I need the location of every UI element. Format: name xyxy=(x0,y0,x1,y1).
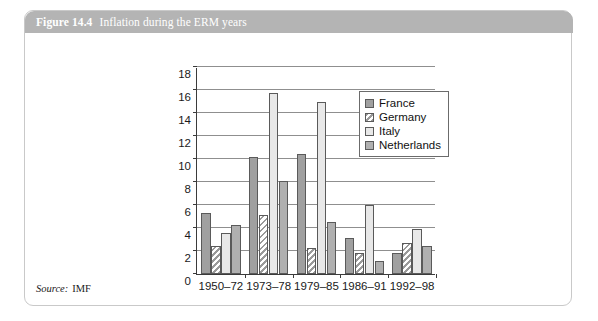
bar-italy-0 xyxy=(221,233,231,274)
legend-label: Germany xyxy=(379,111,426,123)
legend-swatch-france xyxy=(365,99,374,108)
bar-netherlands-3 xyxy=(375,261,385,274)
bar-germany-3 xyxy=(355,253,365,274)
bar-germany-0 xyxy=(211,246,221,274)
bar-group xyxy=(197,68,245,274)
bar-germany-4 xyxy=(402,243,412,274)
bar-france-2 xyxy=(297,154,307,274)
x-axis-tick xyxy=(245,274,246,278)
bar-france-3 xyxy=(345,238,355,274)
legend-item-italy: Italy xyxy=(365,124,441,138)
x-axis-tick xyxy=(340,274,341,278)
x-axis-tick xyxy=(436,274,437,278)
figure-title: Inflation during the ERM years xyxy=(99,16,246,28)
bar-germany-1 xyxy=(259,215,269,274)
legend-item-netherlands: Netherlands xyxy=(365,138,441,152)
figure-container: Figure 14.4 Inflation during the ERM yea… xyxy=(24,10,572,306)
bar-italy-3 xyxy=(365,205,375,274)
x-axis-tick xyxy=(388,274,389,278)
bar-italy-2 xyxy=(317,102,327,275)
gridline xyxy=(197,66,435,67)
figure-number: Figure 14.4 xyxy=(36,16,92,28)
bar-france-1 xyxy=(249,157,259,274)
bar-france-0 xyxy=(201,213,211,274)
legend-item-germany: Germany xyxy=(365,110,441,124)
x-axis-category-label: 1973–78 xyxy=(246,280,291,292)
chart-legend: FranceGermanyItalyNetherlands xyxy=(359,91,449,157)
source-note: Source:IMF xyxy=(36,283,91,294)
legend-swatch-germany xyxy=(365,113,374,122)
bar-netherlands-0 xyxy=(231,225,241,274)
legend-swatch-netherlands xyxy=(365,141,374,150)
figure-title-bar: Figure 14.4 Inflation during the ERM yea… xyxy=(25,11,573,33)
x-axis-category-label: 1992–98 xyxy=(390,280,435,292)
y-axis-tick xyxy=(193,66,197,67)
x-axis-category-label: 1979–85 xyxy=(294,280,339,292)
legend-item-france: France xyxy=(365,96,441,110)
bar-italy-4 xyxy=(412,229,422,274)
bar-france-4 xyxy=(392,253,402,274)
bar-group xyxy=(293,68,341,274)
bar-netherlands-2 xyxy=(327,222,337,274)
legend-swatch-italy xyxy=(365,127,374,136)
x-axis-category-label: 1950–72 xyxy=(199,280,244,292)
legend-label: France xyxy=(379,97,415,109)
source-value: IMF xyxy=(72,283,91,294)
bar-netherlands-1 xyxy=(279,181,289,274)
legend-label: Italy xyxy=(379,125,400,137)
source-label: Source: xyxy=(36,283,68,294)
x-axis-category-label: 1986–91 xyxy=(342,280,387,292)
bar-netherlands-4 xyxy=(422,246,432,274)
x-axis-tick xyxy=(293,274,294,278)
legend-label: Netherlands xyxy=(379,139,441,151)
bar-italy-1 xyxy=(269,93,279,274)
bar-group xyxy=(245,68,293,274)
bar-germany-2 xyxy=(307,248,317,274)
chart-area: 0246810121416181950–721973–781979–851986… xyxy=(25,33,573,307)
